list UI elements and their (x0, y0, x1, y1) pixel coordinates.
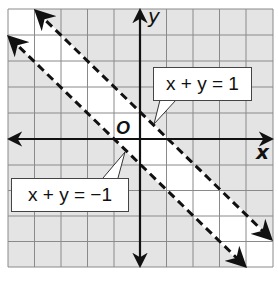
x-axis-label: x (256, 142, 269, 162)
equation-label-x-plus-y-eq-1: x + y = 1 (153, 67, 252, 101)
equation-text: x + y = −1 (28, 184, 112, 206)
origin-label: O (116, 119, 130, 137)
equation-label-x-plus-y-eq-neg1: x + y = −1 (11, 178, 129, 212)
y-axis-label: y (148, 6, 160, 26)
equation-text: x + y = 1 (166, 73, 239, 95)
coordinate-graph (0, 0, 278, 288)
